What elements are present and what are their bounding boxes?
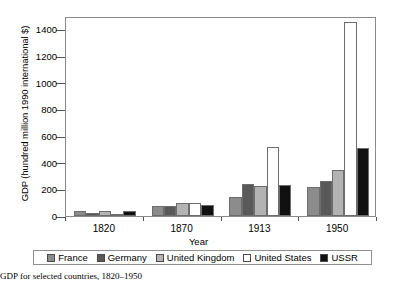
legend-label: United Kingdom [167,253,235,263]
legend-swatch-icon [320,254,328,262]
plot-area [65,17,376,217]
legend-swatch-icon [97,254,105,262]
x-axis-title: Year [0,236,397,247]
figure-caption: GDP for selected countries, 1820–1950 [0,271,397,281]
legend-item-united-states: United States [243,253,311,263]
legend-label: United States [254,253,311,263]
legend-label: France [58,253,88,263]
y-tick-label: 600 [17,132,57,142]
legend-item-france: France [47,253,88,263]
x-tick-mark [376,217,377,221]
x-tick-mark [221,217,222,221]
bar-united-kingdom-1913 [254,186,266,216]
legend-item-germany: Germany [97,253,147,263]
bar-container [66,18,375,216]
bar-ussr-1950 [357,148,369,216]
y-tick-label: 0 [17,212,57,222]
bar-united-states-1950 [344,22,356,216]
y-tick-mark [56,217,65,218]
bar-germany-1913 [242,184,254,216]
bar-ussr-1870 [201,205,213,216]
bar-germany-1820 [86,213,98,216]
y-tick-label: 1200 [17,52,57,62]
bar-france-1913 [229,197,241,216]
x-tick-label: 1950 [302,223,372,234]
x-tick-label: 1870 [147,223,217,234]
bar-united-states-1870 [189,203,201,216]
legend-swatch-icon [47,254,55,262]
bar-group [222,18,300,216]
y-tick-label: 1400 [17,25,57,35]
caption-text: GDP for selected countries, 1820–1950 [0,271,142,281]
y-tick-mark [56,83,65,84]
y-tick-mark [56,190,65,191]
legend-swatch-icon [156,254,164,262]
bar-united-kingdom-1870 [176,203,188,216]
y-tick-mark [56,57,65,58]
y-tick-mark [56,163,65,164]
bar-group [66,18,144,216]
bar-united-kingdom-1820 [99,211,111,216]
bar-group [299,18,377,216]
x-tick-label: 1913 [224,223,294,234]
bar-france-1870 [152,206,164,216]
x-tick-label: 1820 [69,223,139,234]
legend-item-ussr: USSR [320,253,357,263]
x-tick-mark [65,217,66,221]
bar-united-kingdom-1950 [332,170,344,216]
legend-item-united-kingdom: United Kingdom [156,253,235,263]
legend: FranceGermanyUnited KingdomUnited States… [33,250,372,265]
y-tick-label: 200 [17,185,57,195]
bar-group [144,18,222,216]
bar-ussr-1820 [123,211,135,216]
bar-ussr-1913 [279,185,291,216]
bar-germany-1950 [320,181,332,216]
legend-swatch-icon [243,254,251,262]
bar-germany-1870 [164,206,176,216]
y-tick-mark [56,30,65,31]
x-tick-mark [143,217,144,221]
y-tick-mark [56,110,65,111]
bar-united-states-1820 [111,214,123,216]
y-tick-label: 400 [17,159,57,169]
bar-france-1820 [74,211,86,216]
legend-label: USSR [331,253,357,263]
legend-label: Germany [108,253,147,263]
x-tick-mark [298,217,299,221]
bar-france-1950 [307,187,319,216]
y-tick-label: 800 [17,105,57,115]
y-tick-label: 1000 [17,79,57,89]
bar-united-states-1913 [267,147,279,216]
y-tick-mark [56,137,65,138]
figure: GDP (hundred million 1990 international … [0,0,397,288]
